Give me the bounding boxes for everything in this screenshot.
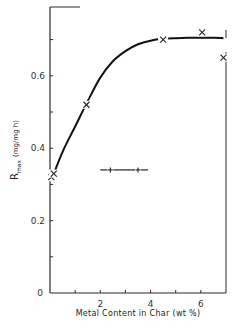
y-tick-label: 0.6 [31,71,46,81]
x-tick-label: 2 [97,299,103,309]
x-tick-label: 6 [198,299,204,309]
curve-path [53,38,224,177]
y-tick-label: 0.2 [31,216,45,226]
y-axis-title: Rmax(mg/mg h) [9,120,22,180]
y-axis-title-main: R [9,173,20,180]
fitted-curve [53,38,224,177]
svg-text:Rmax(mg/mg h): Rmax(mg/mg h) [9,120,22,180]
x-axis-title: Metal Content in Char (wt %) [76,309,201,318]
data-point-x-marker [218,54,228,62]
y-axis-title-units: (mg/mg h) [12,120,20,157]
data-point-x-marker [158,36,168,44]
x-tick-label: 4 [148,299,154,309]
y-axis-title-sub: max [15,160,22,174]
y-tick-label: 0.4 [31,143,46,153]
data-point-x-marker [81,101,91,109]
error-bar-legend [100,167,148,172]
data-point-x-marker [49,170,59,178]
data-point-x-marker [197,28,207,36]
data-points [46,28,228,181]
chart: 2460.20.40.60 Metal Content in Char (wt … [0,0,234,328]
origin-label: 0 [37,288,43,298]
